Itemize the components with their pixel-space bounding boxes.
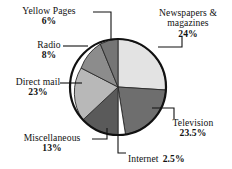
label-internet-value: 2.5% xyxy=(163,153,185,164)
label-radio-value: 8% xyxy=(20,50,78,60)
label-yellow-pages: Yellow Pages 6% xyxy=(6,6,92,27)
leader-line-internet xyxy=(118,134,126,153)
label-miscellaneous: Miscellaneous 13% xyxy=(12,133,92,154)
leader-line-yellow-pages xyxy=(93,12,111,40)
label-radio: Radio 8% xyxy=(20,40,78,61)
label-yellow-pages-value: 6% xyxy=(6,16,92,26)
label-miscellaneous-value: 13% xyxy=(12,143,92,153)
label-television-value: 23.5% xyxy=(160,128,226,138)
label-direct-mail: Direct mail 23% xyxy=(2,77,74,98)
label-newspapers-magazines: Newspapers & magazines 24% xyxy=(148,8,228,39)
label-television: Television 23.5% xyxy=(160,118,226,139)
label-internet-name: Internet xyxy=(128,153,159,164)
label-direct-mail-value: 23% xyxy=(2,87,74,97)
label-internet: Internet 2.5% xyxy=(128,148,185,166)
pie-chart-figure: Yellow Pages 6% Radio 8% Direct mail 23%… xyxy=(0,0,232,169)
label-newspapers-magazines-value: 24% xyxy=(148,29,228,39)
